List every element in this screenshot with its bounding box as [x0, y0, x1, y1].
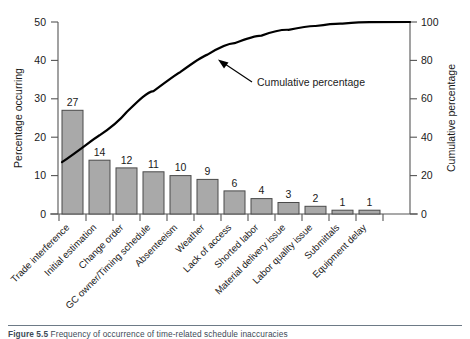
left-tick-label: 30: [34, 92, 46, 104]
annotation-arrow-head: [218, 60, 229, 69]
bar-value-label: 2: [313, 192, 319, 204]
bar-value-label: 4: [259, 184, 265, 196]
bar: [62, 110, 83, 214]
annotation-label: Cumulative percentage: [257, 76, 365, 88]
pareto-figure: 0 10 20 30 40 50 0 20 40 60 80 100: [0, 0, 470, 339]
caption-number: Figure 5.5: [8, 329, 48, 339]
left-tick-label: 40: [34, 54, 46, 66]
y-axis-title: Percentage occurring: [12, 68, 24, 168]
bar-value-label: 11: [148, 158, 159, 170]
bar: [116, 168, 137, 214]
right-tick-label: 60: [421, 92, 433, 104]
bar: [332, 210, 353, 214]
left-axis-ticks: [51, 22, 58, 214]
category-labels: Trade interference Initial estimation Ch…: [8, 221, 368, 311]
bar: [278, 203, 299, 215]
caption-divider: [8, 325, 462, 326]
bar-value-label: 3: [286, 188, 292, 200]
figure-caption: Figure 5.5 Frequency of occurrence of ti…: [8, 329, 462, 339]
left-tick-label: 20: [34, 131, 46, 143]
bar: [143, 172, 164, 214]
bar: [89, 160, 110, 214]
pareto-chart: 0 10 20 30 40 50 0 20 40 60 80 100: [0, 0, 470, 339]
bar-value-labels: 27 14 12 11 10 9 6 4 3 2 1 1: [67, 96, 373, 208]
category-ticks: [59, 214, 383, 221]
left-tick-labels: 0 10 20 30 40 50: [34, 16, 46, 220]
caption-text: Frequency of occurrence of time-related …: [51, 329, 288, 339]
left-tick-label: 10: [34, 169, 46, 181]
bar: [170, 176, 191, 214]
y2-axis-title: Cumulative percentage: [445, 64, 457, 172]
bar: [224, 191, 245, 214]
cumulative-curve: [62, 22, 410, 162]
bar-value-label: 1: [367, 196, 373, 208]
bar: [359, 210, 380, 214]
right-tick-label: 0: [421, 208, 427, 220]
bar-value-label: 10: [175, 161, 187, 173]
bars-group: [62, 110, 380, 214]
bar: [305, 206, 326, 214]
left-tick-label: 0: [40, 208, 46, 220]
right-tick-label: 100: [421, 16, 439, 28]
left-tick-label: 50: [34, 16, 46, 28]
right-tick-label: 80: [421, 54, 433, 66]
bar-value-label: 6: [232, 177, 238, 189]
bar-value-label: 27: [67, 96, 79, 108]
right-tick-label: 40: [421, 131, 433, 143]
bar-value-label: 9: [205, 165, 211, 177]
bar-value-label: 1: [340, 196, 346, 208]
bar-value-label: 14: [94, 146, 106, 158]
bar: [251, 199, 272, 214]
right-axis-ticks: [410, 22, 417, 214]
bar: [197, 179, 218, 214]
bar-value-label: 12: [121, 154, 133, 166]
right-tick-label: 20: [421, 169, 433, 181]
right-tick-labels: 0 20 40 60 80 100: [421, 16, 439, 220]
